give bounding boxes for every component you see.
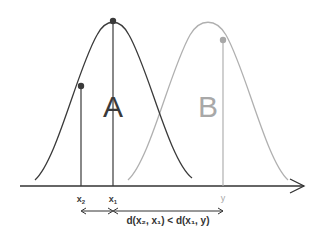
- distribution-a-label: A: [103, 90, 123, 123]
- distance-diagram: A B x2 x1 y d(x₂, x₁) < d(x₁, y): [0, 0, 319, 238]
- x2-tick-label: x2: [77, 194, 86, 205]
- distance-inequality: d(x₂, x₁) < d(x₁, y): [126, 215, 209, 226]
- x1-point: [110, 18, 116, 24]
- distribution-b-label: B: [198, 90, 218, 123]
- x2-point: [78, 83, 84, 89]
- y-tick-label: y: [221, 193, 226, 203]
- x1-tick-label: x1: [109, 194, 118, 205]
- y-point: [220, 37, 226, 43]
